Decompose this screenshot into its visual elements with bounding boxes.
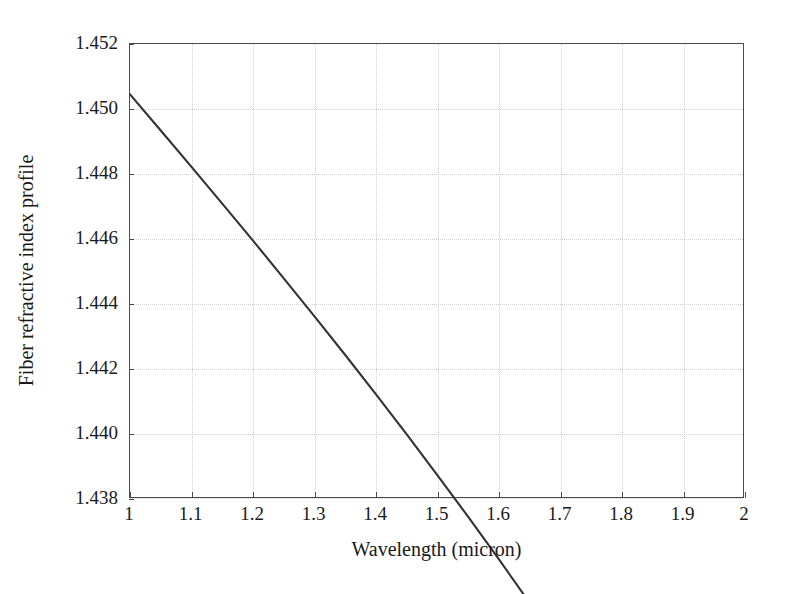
- y-tick-label: 1.440: [0, 422, 118, 444]
- x-tick-label: 1.2: [240, 503, 264, 525]
- x-tick-label: 1.7: [548, 503, 572, 525]
- x-tick-label: 1.1: [179, 503, 203, 525]
- x-tick-label: 1: [124, 503, 134, 525]
- y-tick-label: 1.450: [0, 97, 118, 119]
- y-tick-label: 1.452: [0, 32, 118, 54]
- plot-area: [129, 43, 744, 498]
- x-tick-label: 1.6: [486, 503, 510, 525]
- x-tick-label: 1.8: [609, 503, 633, 525]
- x-tick-label: 1.5: [425, 503, 449, 525]
- y-axis-title-text: Fiber refractive index profile: [16, 155, 39, 387]
- x-tick-label: 1.3: [302, 503, 326, 525]
- x-tick-label: 1.4: [363, 503, 387, 525]
- y-tick-label: 1.444: [0, 292, 118, 314]
- data-series-line: [130, 44, 745, 499]
- x-tick-label: 1.9: [671, 503, 695, 525]
- x-tick-mark: [745, 492, 746, 498]
- x-axis-title: Wavelength (micron): [129, 538, 744, 561]
- x-tick-label: 2: [739, 503, 749, 525]
- chart-figure: Fiber refractive index profile 1.4381.44…: [0, 0, 785, 594]
- y-tick-label: 1.446: [0, 227, 118, 249]
- y-tick-label: 1.448: [0, 162, 118, 184]
- y-tick-label: 1.438: [0, 487, 118, 509]
- y-tick-label: 1.442: [0, 357, 118, 379]
- y-tick-mark: [129, 499, 134, 500]
